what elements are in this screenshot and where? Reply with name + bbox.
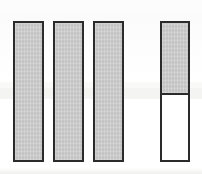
bar-2 [53,21,84,162]
bar-1 [13,21,44,162]
bar-1-grain [15,23,42,160]
scan-bottom-smudge [0,168,202,174]
bar-2-grain [55,23,82,160]
bar-3-grain [95,23,122,160]
bar-4-grain [162,23,188,93]
bar-figure [0,0,202,174]
bar-4 [160,21,190,162]
bar-4-filled-segment [162,23,188,95]
bar-3 [93,21,124,162]
bar-4-empty-segment [162,95,188,160]
